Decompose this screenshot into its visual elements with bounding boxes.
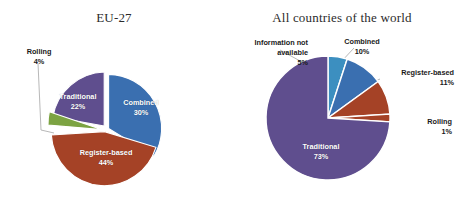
pie-chart-eu27 — [0, 0, 228, 201]
slice-label-rolling: Rolling 1% — [380, 117, 452, 137]
slice-label-register-based-name: Register-based — [401, 68, 454, 77]
slice-label-register-based: Register-based 11% — [370, 68, 454, 88]
slice-label-rolling-pct: 4% — [12, 57, 66, 67]
slice-label-combined-name: Combined — [344, 37, 380, 46]
chart-panel-eu27: EU-27 Combined 30% Register-based 44% Tr… — [0, 0, 228, 201]
slice-label-info-name-line2: available — [224, 48, 308, 58]
slice-label-rolling-pct: 1% — [380, 127, 452, 137]
pie-chart-world — [228, 0, 456, 201]
slice-label-info-pct: 5% — [224, 58, 308, 68]
slice-label-rolling: Rolling 4% — [12, 47, 66, 67]
slice-label-register-based-pct: 11% — [370, 78, 454, 88]
slice-label-combined-pct: 10% — [332, 47, 392, 57]
chart-panel-world: All countries of the world Information n… — [228, 0, 456, 201]
slice-label-rolling-name: Rolling — [27, 47, 52, 56]
slice-label-rolling-name: Rolling — [427, 117, 452, 126]
slice-label-info-name-line1: Information not — [254, 38, 308, 47]
slice-label-information-not-available: Information not available 5% — [224, 38, 308, 68]
figure-canvas: EU-27 Combined 30% Register-based 44% Tr… — [0, 0, 456, 201]
slice-label-combined: Combined 10% — [332, 37, 392, 57]
